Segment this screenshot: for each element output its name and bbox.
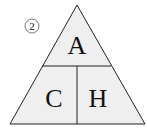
cell-bottom-left-label: C	[45, 84, 62, 113]
triangle-diagram: 2 A C H	[0, 0, 147, 129]
number-marker-label: 2	[29, 20, 35, 32]
cell-bottom-right-label: H	[89, 84, 108, 113]
cell-top-label: A	[68, 31, 87, 60]
